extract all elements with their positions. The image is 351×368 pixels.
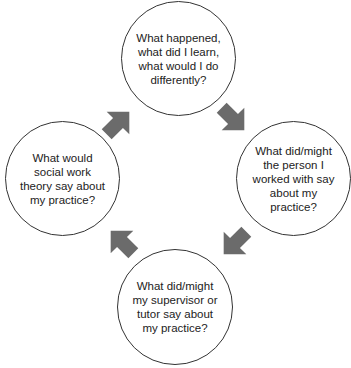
node-right-label: What did/might the person I worked with …: [253, 144, 335, 214]
node-bottom-supervisor-tutor: What did/might my supervisor or tutor sa…: [117, 249, 233, 365]
node-left-label: What would social work theory say about …: [20, 151, 105, 207]
node-bottom-label: What did/might my supervisor or tutor sa…: [133, 279, 218, 335]
arrow-down-right-icon: [209, 95, 257, 143]
arrow-down-left-icon: [211, 219, 259, 267]
node-top-label: What happened, what did I learn, what wo…: [136, 31, 220, 87]
node-left-social-work-theory: What would social work theory say about …: [5, 121, 120, 236]
arrow-up-left-icon: [98, 218, 146, 266]
node-top-what-happened: What happened, what did I learn, what wo…: [121, 1, 236, 116]
node-right-person-worked-with: What did/might the person I worked with …: [236, 121, 351, 236]
